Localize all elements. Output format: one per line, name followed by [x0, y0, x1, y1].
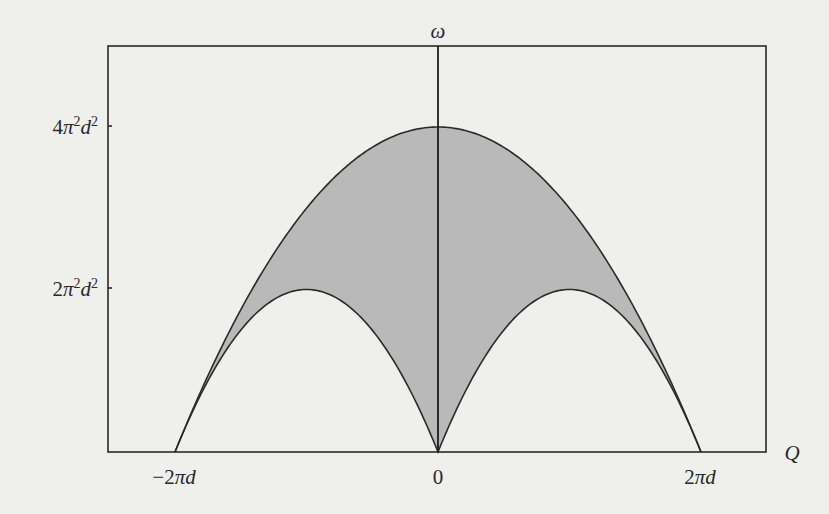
x-tick-label-zero: 0 — [433, 465, 444, 489]
x-axis-label: Q — [784, 441, 799, 465]
x-tick-label-2pid: 2πd — [684, 465, 716, 489]
y-tick-label-2pi2d2: 2π2d2 — [52, 276, 98, 301]
dispersion-plot: ω Q 4π2d2 2π2d2 −2πd 0 2πd — [0, 0, 829, 514]
y-tick-label-4pi2d2: 4π2d2 — [52, 114, 98, 139]
y-axis-label: ω — [431, 19, 446, 43]
x-tick-label-neg2pid: −2πd — [152, 465, 196, 489]
